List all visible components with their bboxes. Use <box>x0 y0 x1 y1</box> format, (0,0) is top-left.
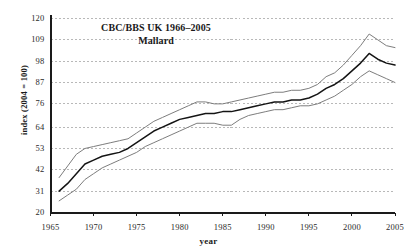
x-tick-label: 1970 <box>74 222 114 232</box>
y-tick-label: 76 <box>19 98 45 108</box>
x-tick-label: 2005 <box>375 222 415 232</box>
chart-title-block: CBC/BBS UK 1966–2005 Mallard <box>66 22 246 47</box>
y-tick-label: 87 <box>19 77 45 87</box>
y-tick-label: 31 <box>19 186 45 196</box>
x-tick-label: 1995 <box>289 222 329 232</box>
chart-subtitle: Mallard <box>66 35 246 48</box>
x-tick-label: 1990 <box>246 222 286 232</box>
data-series-group <box>59 34 395 201</box>
y-tick-label: 53 <box>19 143 45 153</box>
x-tick-label: 1975 <box>117 222 157 232</box>
x-tick-label: 1980 <box>160 222 200 232</box>
x-tick-label: 1985 <box>203 222 243 232</box>
y-tick-label: 120 <box>19 13 45 23</box>
y-tick-label: 42 <box>19 164 45 174</box>
y-tick-label: 98 <box>19 56 45 66</box>
gridlines <box>51 19 396 213</box>
y-tick-label: 20 <box>19 207 45 217</box>
x-tick-label: 1965 <box>31 222 71 232</box>
x-axis-label: year <box>0 236 417 246</box>
y-tick-label: 64 <box>19 122 45 132</box>
chart-container: CBC/BBS UK 1966–2005 Mallard index (2004… <box>0 0 417 252</box>
x-tick-label: 2000 <box>332 222 372 232</box>
y-tick-label: 109 <box>19 34 45 44</box>
page-title: CBC/BBS UK 1966–2005 <box>66 22 246 35</box>
